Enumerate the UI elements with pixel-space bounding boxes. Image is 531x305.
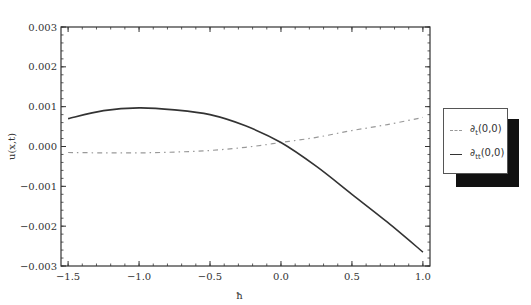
y-axis-label: u(x,t) bbox=[6, 133, 17, 160]
legend-label: ∂t(0,0) bbox=[470, 123, 502, 137]
y-tick-label: 0.001 bbox=[28, 101, 57, 112]
y-tick-label: 0.000 bbox=[28, 141, 57, 152]
solid-line-swatch bbox=[450, 154, 462, 155]
series-dt-line bbox=[68, 117, 423, 153]
x-tick-label: −1.5 bbox=[56, 271, 80, 282]
x-tick-label: 0.5 bbox=[344, 271, 360, 282]
x-axis-label: ħ bbox=[236, 290, 243, 301]
x-tick-label: −0.5 bbox=[198, 271, 222, 282]
y-tick-label: 0.003 bbox=[28, 22, 57, 33]
dashdot-line-swatch bbox=[450, 130, 462, 131]
x-tick-label: 1.0 bbox=[415, 271, 431, 282]
y-tick-label: 0.002 bbox=[28, 61, 57, 72]
legend-item-dt: ∂t(0,0) bbox=[450, 123, 502, 137]
y-tick-label: −0.001 bbox=[20, 181, 57, 192]
legend-label: ∂tt(0,0) bbox=[470, 147, 504, 161]
x-tick-label: −1.0 bbox=[127, 271, 151, 282]
x-tick-label: 0.0 bbox=[273, 271, 289, 282]
plot-frame bbox=[61, 27, 430, 266]
y-tick-label: −0.003 bbox=[20, 261, 57, 272]
y-tick-label: −0.002 bbox=[20, 221, 57, 232]
legend: ∂t(0,0) ∂tt(0,0) bbox=[443, 108, 508, 174]
series-dtt-line bbox=[68, 108, 423, 252]
legend-item-dtt: ∂tt(0,0) bbox=[450, 147, 504, 161]
